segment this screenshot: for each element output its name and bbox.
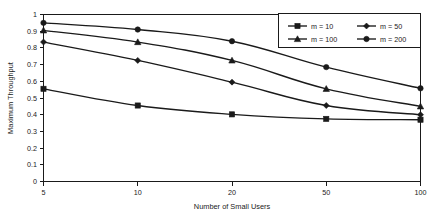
data-point-marker [41,86,46,91]
data-point-marker [41,20,46,25]
data-point-marker [418,86,423,91]
x-tick-label: 50 [322,188,330,197]
series-m-50 [41,39,424,118]
legend-label: m = 50 [380,22,402,31]
x-axis-ticks [44,182,421,186]
data-point-marker [41,39,47,45]
y-tick-label: 0.7 [27,60,37,69]
y-tick-label: 0.8 [27,43,37,52]
legend-label: m = 200 [380,35,406,44]
data-point-marker [229,112,234,117]
chart-legend: m = 10m = 50m = 100m = 200 [279,14,421,48]
data-point-marker [135,27,140,32]
x-tick-label: 5 [42,188,46,197]
series-line [44,42,421,115]
x-axis-tick-labels: 5 10 20 50 100 [42,188,427,197]
y-tick-label: 0 [33,177,37,186]
legend-label: m = 100 [311,35,337,44]
data-point-marker [135,57,141,63]
x-tick-label: 100 [415,188,427,197]
y-tick-label: 0.2 [27,144,37,153]
data-point-marker [324,116,329,121]
y-axis-tick-labels: 0 0.1 0.2 0.3 0.4 0.5 0.6 0.7 0.8 0.9 1 [27,10,37,186]
data-point-marker [323,103,329,109]
data-point-marker [229,79,235,85]
line-chart: 0 0.1 0.2 0.3 0.4 0.5 0.6 0.7 0.8 0.9 1 … [0,0,434,219]
y-tick-label: 0.3 [27,127,37,136]
y-tick-label: 0.6 [27,77,37,86]
data-point-marker [135,103,140,108]
legend-marker [364,36,369,41]
y-tick-label: 0.9 [27,27,37,36]
x-tick-label: 20 [228,188,236,197]
data-point-marker [418,112,424,118]
x-axis-title: Number of Small Users [194,202,271,211]
y-tick-label: 0.4 [27,110,37,119]
data-point-marker [229,39,234,44]
y-axis-title: Maximum Throughput [6,62,15,134]
series-m-10 [41,86,423,122]
legend-marker [295,23,300,28]
chart-container: 0 0.1 0.2 0.3 0.4 0.5 0.6 0.7 0.8 0.9 1 … [0,0,434,219]
x-tick-label: 10 [134,188,142,197]
y-tick-label: 1 [33,10,37,19]
legend-label: m = 10 [311,22,333,31]
data-point-marker [324,64,329,69]
y-tick-label: 0.5 [27,94,37,103]
y-tick-label: 0.1 [27,160,37,169]
